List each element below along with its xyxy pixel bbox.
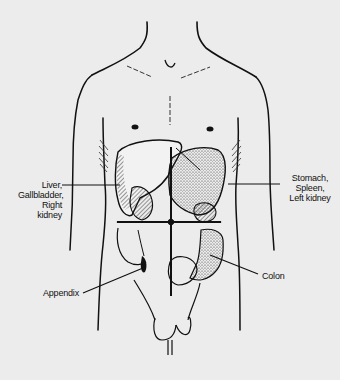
label-line: Stomach, bbox=[280, 173, 340, 183]
label-line: Right bbox=[18, 200, 62, 210]
label-line: Gallbladder, bbox=[18, 190, 62, 200]
colon bbox=[190, 229, 223, 280]
sternal-notch bbox=[165, 60, 175, 67]
label-appendix: Appendix bbox=[43, 288, 79, 298]
label-line: kidney bbox=[18, 210, 62, 220]
pelvis-outline bbox=[134, 280, 200, 355]
label-line: Left kidney bbox=[280, 193, 340, 203]
label-stomach-spleen-left-kidney: Stomach, Spleen, Left kidney bbox=[280, 173, 340, 203]
nipple-right bbox=[132, 125, 139, 130]
label-liver-gallbladder-right-kidney: Liver, Gallbladder, Right kidney bbox=[18, 180, 62, 220]
clavicle-marks bbox=[127, 66, 210, 125]
left-kidney bbox=[194, 203, 216, 222]
label-line: Liver, bbox=[18, 180, 62, 190]
lower-bowel-loop bbox=[168, 257, 196, 285]
neck-outline bbox=[92, 22, 256, 77]
label-line: Spleen, bbox=[280, 183, 340, 193]
nipple-left bbox=[207, 127, 214, 132]
label-colon: Colon bbox=[262, 271, 285, 281]
appendix bbox=[141, 256, 147, 272]
